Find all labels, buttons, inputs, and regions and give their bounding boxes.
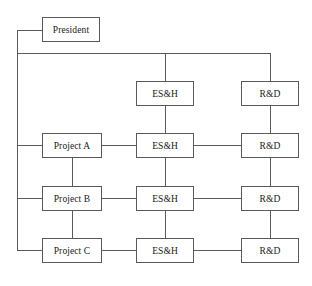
node-label-president: President bbox=[53, 25, 89, 35]
node-rd-c[interactable]: R&D bbox=[241, 238, 299, 263]
connector-president-to-spine bbox=[17, 30, 42, 31]
connector-esh-corp-to-esh-a bbox=[165, 106, 166, 133]
connector-esh-b-to-rd-b bbox=[194, 198, 241, 199]
connector-esh-b-to-esh-c bbox=[165, 211, 166, 238]
node-president[interactable]: President bbox=[42, 17, 100, 42]
connector-esh-a-to-esh-b bbox=[165, 158, 166, 186]
connector-rd-a-to-rd-b bbox=[270, 158, 271, 186]
node-rd-a[interactable]: R&D bbox=[241, 133, 299, 158]
node-label-rd-corp: R&D bbox=[260, 89, 281, 99]
node-label-rd-b: R&D bbox=[260, 194, 281, 204]
node-esh-a[interactable]: ES&H bbox=[136, 133, 194, 158]
node-esh-c[interactable]: ES&H bbox=[136, 238, 194, 263]
node-project-a[interactable]: Project A bbox=[42, 133, 102, 158]
connector-project-b-to-esh-b bbox=[102, 198, 136, 199]
node-label-esh-c: ES&H bbox=[152, 246, 178, 256]
node-label-esh-b: ES&H bbox=[152, 194, 178, 204]
node-label-esh-corp: ES&H bbox=[152, 89, 178, 99]
node-project-c[interactable]: Project C bbox=[42, 238, 102, 263]
node-label-project-c: Project C bbox=[54, 246, 91, 256]
connector-rd-corp-to-rd-a bbox=[270, 106, 271, 133]
node-rd-b[interactable]: R&D bbox=[241, 186, 299, 211]
connector-esh-a-to-rd-a bbox=[194, 145, 241, 146]
node-esh-b[interactable]: ES&H bbox=[136, 186, 194, 211]
connector-bus-drop-esh bbox=[165, 53, 166, 81]
connector-project-b-to-project-c bbox=[72, 211, 73, 238]
connector-left-spine bbox=[17, 30, 18, 251]
node-label-esh-a: ES&H bbox=[152, 141, 178, 151]
connector-rd-b-to-rd-c bbox=[270, 211, 271, 238]
connector-bus-drop-rd bbox=[270, 53, 271, 81]
node-rd-corp[interactable]: R&D bbox=[241, 81, 299, 106]
connector-esh-c-to-rd-c bbox=[194, 250, 241, 251]
connector-spine-to-project-b bbox=[17, 198, 42, 199]
node-label-rd-a: R&D bbox=[260, 141, 281, 151]
connector-project-c-to-esh-c bbox=[102, 250, 136, 251]
node-label-project-a: Project A bbox=[54, 141, 91, 151]
node-label-project-b: Project B bbox=[54, 194, 91, 204]
connector-project-a-to-project-b bbox=[72, 158, 73, 186]
node-label-rd-c: R&D bbox=[260, 246, 281, 256]
connector-project-a-to-esh-a bbox=[102, 145, 136, 146]
connector-spine-to-project-c bbox=[17, 250, 42, 251]
connector-top-bus bbox=[17, 53, 271, 54]
connector-spine-to-project-a bbox=[17, 145, 42, 146]
org-chart-diagram: PresidentES&HR&DProject AES&HR&DProject … bbox=[0, 0, 312, 286]
node-esh-corp[interactable]: ES&H bbox=[136, 81, 194, 106]
node-project-b[interactable]: Project B bbox=[42, 186, 102, 211]
